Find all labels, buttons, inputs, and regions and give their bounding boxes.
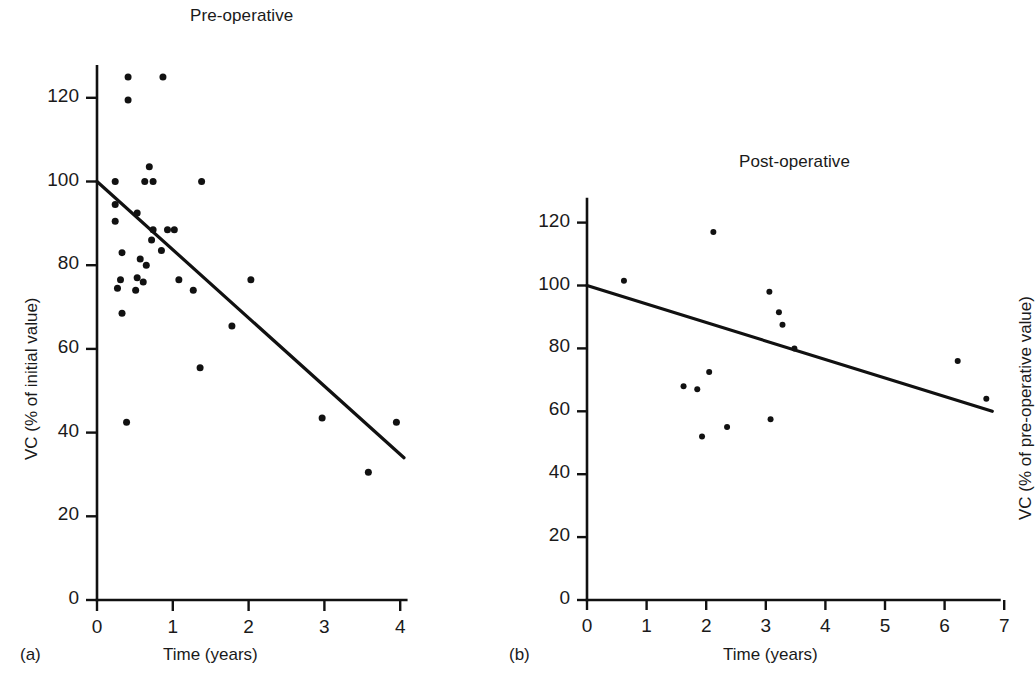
data-point xyxy=(791,345,797,351)
y-tick-label: 20 xyxy=(549,524,570,546)
data-point xyxy=(137,255,144,262)
panel-a-y-axis-title: VC (% of initial value) xyxy=(22,297,42,460)
y-tick-label: 20 xyxy=(58,503,79,525)
data-point xyxy=(197,364,204,371)
data-point xyxy=(148,237,155,244)
data-point xyxy=(125,73,132,80)
data-point xyxy=(150,226,157,233)
y-tick-label: 40 xyxy=(58,420,79,442)
data-point xyxy=(955,358,961,364)
data-point xyxy=(768,416,774,422)
x-tick-label: 2 xyxy=(686,615,726,637)
data-point xyxy=(112,201,119,208)
panel-b-letter: (b) xyxy=(509,645,530,665)
panel-b-x-axis-title: Time (years) xyxy=(723,645,818,665)
x-tick-label: 5 xyxy=(865,615,905,637)
y-tick-label: 80 xyxy=(58,252,79,274)
data-point xyxy=(134,274,141,281)
data-point xyxy=(621,278,627,284)
data-point xyxy=(143,262,150,269)
x-tick-label: 6 xyxy=(925,615,965,637)
data-point xyxy=(175,276,182,283)
data-point xyxy=(393,419,400,426)
data-point xyxy=(164,226,171,233)
data-point xyxy=(150,178,157,185)
data-point xyxy=(119,249,126,256)
regression-line xyxy=(97,182,404,458)
y-tick-label: 100 xyxy=(538,273,570,295)
data-point xyxy=(140,278,147,285)
data-point xyxy=(228,322,235,329)
panel-a-x-axis-title: Time (years) xyxy=(163,645,258,665)
x-tick-label: 1 xyxy=(627,615,667,637)
y-tick-label: 80 xyxy=(549,335,570,357)
data-point xyxy=(724,424,730,430)
data-point xyxy=(247,276,254,283)
data-point xyxy=(319,414,326,421)
x-tick-label: 0 xyxy=(77,616,117,638)
x-tick-label: 4 xyxy=(380,616,420,638)
data-point xyxy=(134,209,141,216)
data-point xyxy=(365,469,372,476)
x-tick-label: 3 xyxy=(304,616,344,638)
data-point xyxy=(983,396,989,402)
data-point xyxy=(694,386,700,392)
x-tick-label: 4 xyxy=(805,615,845,637)
x-tick-label: 0 xyxy=(567,615,607,637)
y-tick-label: 120 xyxy=(538,210,570,232)
data-point xyxy=(125,96,132,103)
data-point xyxy=(119,310,126,317)
data-point xyxy=(112,178,119,185)
y-tick-label: 60 xyxy=(549,398,570,420)
regression-line xyxy=(587,286,992,412)
data-point xyxy=(117,276,124,283)
y-tick-label: 60 xyxy=(58,336,79,358)
data-point xyxy=(114,285,121,292)
data-point xyxy=(779,322,785,328)
data-point xyxy=(776,309,782,315)
data-point xyxy=(159,73,166,80)
data-point xyxy=(123,419,130,426)
y-tick-label: 120 xyxy=(47,85,79,107)
data-point xyxy=(699,433,705,439)
panel-pre-operative: Pre-operative (a) Time (years) VC (% of … xyxy=(0,0,500,675)
x-tick-label: 3 xyxy=(746,615,786,637)
panel-b-plot-area xyxy=(500,0,1002,675)
data-point xyxy=(190,287,197,294)
panel-post-operative: Post-operative (b) Time (years) VC (% of… xyxy=(500,0,1002,675)
data-point xyxy=(146,163,153,170)
panel-a-letter: (a) xyxy=(20,645,41,665)
y-tick-label: 0 xyxy=(559,587,570,609)
x-tick-label: 1 xyxy=(153,616,193,638)
data-point xyxy=(710,229,716,235)
data-point xyxy=(141,178,148,185)
data-point xyxy=(706,369,712,375)
x-tick-label: 2 xyxy=(229,616,269,638)
data-point xyxy=(681,383,687,389)
data-point xyxy=(198,178,205,185)
data-point xyxy=(112,218,119,225)
data-point xyxy=(158,247,165,254)
data-point xyxy=(171,226,178,233)
y-tick-label: 100 xyxy=(47,169,79,191)
data-point xyxy=(766,289,772,295)
x-tick-label: 7 xyxy=(984,615,1024,637)
panel-b-y-axis-title: VC (% of pre-operative value) xyxy=(1016,296,1036,520)
y-tick-label: 40 xyxy=(549,461,570,483)
data-point xyxy=(132,287,139,294)
y-tick-label: 0 xyxy=(68,587,79,609)
